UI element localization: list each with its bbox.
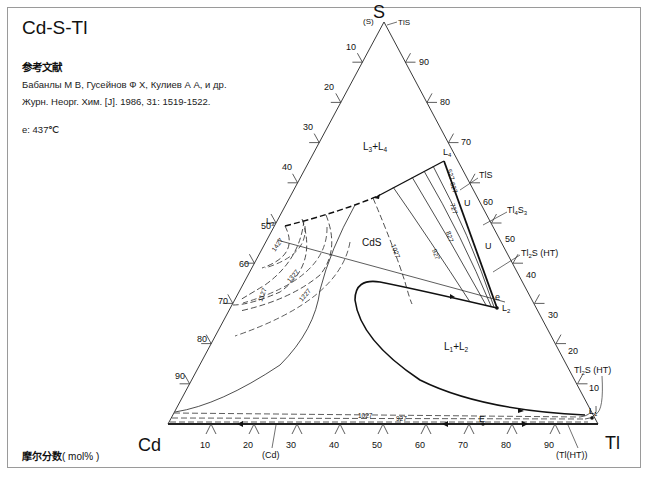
vertex-label-Tl: Tl xyxy=(605,433,620,453)
leader-Tl2S-HT-lower xyxy=(596,376,602,414)
svg-text:80: 80 xyxy=(197,334,207,344)
L3-L4-boundary-dashed xyxy=(285,196,378,226)
ternary-diagram: 102030 405060 708090 908070 605040 30201… xyxy=(0,0,649,480)
svg-text:10: 10 xyxy=(589,383,599,393)
compound-label-TlS: TlS xyxy=(479,170,493,180)
svg-text:90: 90 xyxy=(419,57,429,67)
bottom-edge-ticks xyxy=(206,424,560,434)
compound-label-TlS-top: TlS xyxy=(398,18,410,27)
svg-text:20: 20 xyxy=(243,440,253,450)
arrow-marker xyxy=(374,194,380,199)
phase-label-Tl-HT: (Tl(HT)) xyxy=(556,450,587,460)
region-label-CdS: CdS xyxy=(362,237,382,248)
svg-text:927: 927 xyxy=(431,248,441,261)
svg-text:80: 80 xyxy=(501,440,511,450)
svg-text:70: 70 xyxy=(218,296,228,306)
svg-text:80: 80 xyxy=(440,97,450,107)
phase-label-Cd: (Cd) xyxy=(262,450,280,460)
svg-text:30: 30 xyxy=(303,122,313,132)
point-L1-marker xyxy=(590,416,594,420)
svg-text:90: 90 xyxy=(544,440,554,450)
svg-text:1327: 1327 xyxy=(285,268,300,284)
region-label-L3-L4: L3+L4 xyxy=(363,141,388,153)
point-label-L4: L4 xyxy=(443,147,452,158)
svg-text:1227: 1227 xyxy=(297,287,312,303)
svg-text:1027: 1027 xyxy=(358,412,373,419)
left-edge-tick-labels: 102030 405060 708090 xyxy=(175,42,356,381)
svg-text:40: 40 xyxy=(282,162,292,172)
point-label-U: U xyxy=(485,241,492,251)
tie-line-L3-L2 xyxy=(277,240,505,302)
point-label-L3: L3 xyxy=(266,216,275,227)
svg-text:60: 60 xyxy=(239,259,249,269)
region-label-L1-L2: L1+L2 xyxy=(444,341,469,353)
L1-L2-miscibility-gap xyxy=(355,281,585,415)
vertex-label-S: S xyxy=(373,2,385,22)
point-label-U: U xyxy=(464,198,471,208)
point-label-L2: L2 xyxy=(502,303,511,314)
svg-text:827: 827 xyxy=(445,230,455,243)
svg-text:40: 40 xyxy=(329,440,339,450)
svg-text:627: 627 xyxy=(449,181,459,194)
leader-Tl-HT-phase xyxy=(568,425,578,448)
svg-text:527: 527 xyxy=(446,168,456,181)
svg-text:10: 10 xyxy=(346,42,356,52)
svg-text:60: 60 xyxy=(483,197,493,207)
svg-text:70: 70 xyxy=(461,137,471,147)
svg-text:40: 40 xyxy=(526,270,536,280)
leader-TlS-top xyxy=(387,22,397,25)
svg-text:50: 50 xyxy=(372,440,382,450)
leader-TlS xyxy=(460,178,478,190)
compound-label-Tl2S-HT-lower: Tl2S (HT) xyxy=(574,365,611,376)
svg-text:1427: 1427 xyxy=(270,236,284,252)
point-label-E: E xyxy=(479,414,485,424)
svg-text:10: 10 xyxy=(200,440,210,450)
leader-Cd-phase xyxy=(272,425,276,448)
svg-text:60: 60 xyxy=(415,440,425,450)
point-L2-marker xyxy=(495,306,499,310)
svg-text:50: 50 xyxy=(505,234,515,244)
right-edge-ticks xyxy=(406,53,588,384)
svg-text:20: 20 xyxy=(324,82,334,92)
triangle-outline xyxy=(168,22,598,424)
compound-label-Tl2S-HT-upper: Tl2S (HT) xyxy=(521,248,558,259)
point-label-e: e xyxy=(495,292,500,302)
svg-text:90: 90 xyxy=(175,371,185,381)
svg-text:70: 70 xyxy=(458,440,468,450)
svg-text:20: 20 xyxy=(568,346,578,356)
vertex-label-Cd: Cd xyxy=(138,435,161,455)
point-label-L1: L1 xyxy=(589,406,598,417)
svg-text:1027: 1027 xyxy=(390,243,402,259)
L3-L4-boundary-solid xyxy=(378,161,444,196)
isotherms-solid xyxy=(175,166,494,412)
svg-text:30: 30 xyxy=(286,440,296,450)
bottom-edge-tick-labels: 102030 405060 708090 xyxy=(200,440,554,450)
svg-text:727: 727 xyxy=(449,202,459,215)
phase-label-S: (S) xyxy=(363,17,374,26)
bottom-isotherms xyxy=(170,413,588,422)
svg-text:30: 30 xyxy=(548,310,558,320)
compound-label-Tl4S3: Tl4S3 xyxy=(507,205,528,216)
